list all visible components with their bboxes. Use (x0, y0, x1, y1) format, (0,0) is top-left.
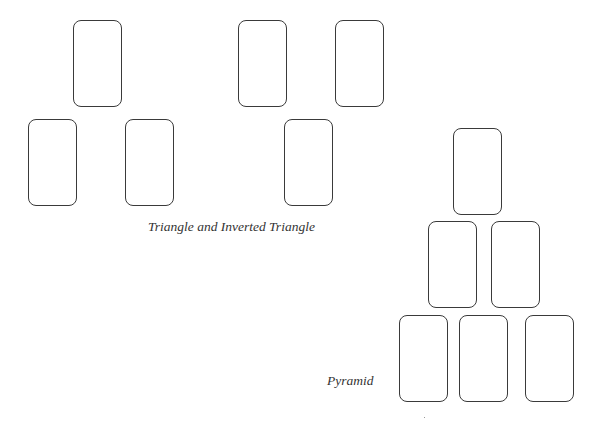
card-pyramid-row3-right (525, 315, 574, 402)
caption-pyramid: Pyramid (327, 373, 374, 389)
card-triangle-bottom-right (125, 119, 174, 206)
card-triangle-top (73, 20, 122, 107)
card-pyramid-row1 (453, 128, 502, 215)
card-pyramid-row3-left (399, 315, 448, 402)
card-pyramid-row2-left (428, 221, 477, 308)
card-inverted-top-right (335, 20, 384, 107)
card-inverted-bottom (284, 119, 333, 206)
card-triangle-bottom-left (28, 119, 77, 206)
card-inverted-top-left (238, 20, 287, 107)
card-pyramid-row3-middle (459, 315, 508, 402)
stray-mark (424, 417, 425, 418)
card-pyramid-row2-right (491, 221, 540, 308)
caption-triangles: Triangle and Inverted Triangle (148, 219, 315, 235)
